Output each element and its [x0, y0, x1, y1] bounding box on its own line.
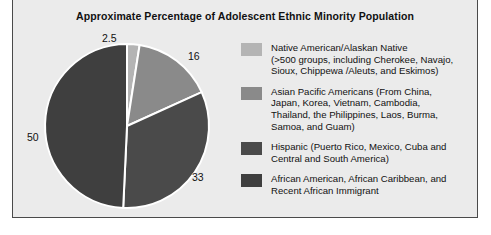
chart-title: Approximate Percentage of Adolescent Eth… — [13, 10, 477, 22]
legend-item-label: Asian Pacific Americans (From China, Jap… — [271, 86, 438, 132]
chart-legend: Native American/Alaskan Native (>500 gro… — [241, 42, 473, 206]
legend-swatch-icon — [241, 43, 262, 56]
legend-item: African American, African Caribbean, and… — [241, 173, 473, 196]
legend-item: Native American/Alaskan Native (>500 gro… — [241, 42, 473, 77]
pie-chart-svg — [43, 42, 211, 210]
pie-slice-label-asian-pacific: 16 — [188, 50, 200, 62]
pie-slice-label-hispanic: 33 — [192, 171, 204, 183]
legend-item-label: Native American/Alaskan Native (>500 gro… — [271, 42, 453, 77]
legend-swatch-icon — [241, 87, 262, 100]
legend-item-label: African American, African Caribbean, and… — [271, 173, 446, 196]
legend-item: Asian Pacific Americans (From China, Jap… — [241, 86, 473, 132]
pie-slice-label-african-american: 50 — [27, 131, 39, 143]
legend-swatch-icon — [241, 174, 262, 187]
legend-item: Hispanic (Puerto Rico, Mexico, Cuba and … — [241, 141, 473, 164]
legend-swatch-icon — [241, 142, 262, 155]
pie-chart-area: 2.5 16 33 50 — [21, 30, 239, 210]
chart-figure: Approximate Percentage of Adolescent Eth… — [12, 0, 478, 218]
legend-item-label: Hispanic (Puerto Rico, Mexico, Cuba and … — [271, 141, 446, 164]
pie-slice — [45, 44, 127, 208]
pie-slice-label-native-american: 2.5 — [102, 32, 117, 44]
